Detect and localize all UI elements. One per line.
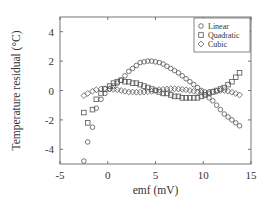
linear-point [82,159,87,164]
linear-point [211,98,216,103]
y-axis-label: Temperature residual (°C) [10,30,23,150]
data-markers [81,59,242,164]
scatter-chart: -5051015-4-2024 emf (mV) Temperature res… [0,0,269,211]
series-quadratic [82,71,242,126]
linear-point [218,107,223,112]
y-tick-label: 0 [49,85,55,97]
x-tick-label: 0 [105,169,111,181]
quadratic-point [233,75,238,80]
linear-point [237,123,242,128]
cubic-point [81,93,87,99]
linear-point [123,74,128,79]
x-tick-label: 5 [153,169,159,181]
quadratic-point [85,121,90,126]
legend: LinearQuadraticCubic [194,18,250,52]
quadratic-point [82,110,87,115]
series-linear [82,59,242,164]
quadratic-point [94,97,99,102]
x-tick-label: 15 [246,169,258,181]
quadratic-point [237,71,242,76]
legend-label: Quadratic [208,31,240,40]
y-tick-label: 2 [49,55,55,67]
linear-point [90,125,95,130]
x-tick-label: -5 [55,169,65,181]
y-tick-label: -4 [45,143,55,155]
cubic-point [130,89,136,95]
linear-point [85,140,90,145]
x-tick-label: 10 [198,169,210,181]
cubic-point [176,86,182,92]
x-axis-label: emf (mV) [133,184,179,197]
cubic-point [172,86,178,92]
y-tick-label: 4 [49,26,55,38]
y-tick-label: -2 [45,114,54,126]
legend-label: Cubic [208,40,228,49]
linear-point [214,103,219,108]
legend-label: Linear [208,22,229,31]
cubic-point [134,89,140,95]
cubic-point [137,89,143,95]
linear-point [99,97,104,102]
